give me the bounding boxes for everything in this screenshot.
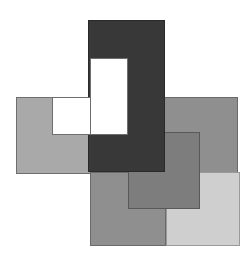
overlapping-rectangles-svg <box>0 0 251 261</box>
figure-canvas <box>0 0 251 261</box>
white-notch-upper-cutout <box>91 59 128 135</box>
